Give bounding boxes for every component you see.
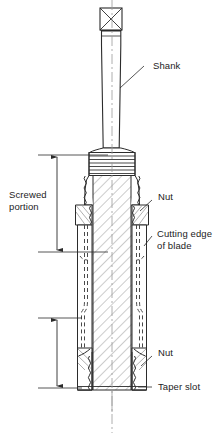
label-cutting-edge-of-blade: Cutting edge of blade [157,228,212,251]
square-head [100,8,122,31]
label-nut-upper: Nut [158,191,173,203]
label-screwed-portion: Screwed portion [9,189,47,212]
label-nut-lower: Nut [158,347,173,359]
tool-cross-section-drawing [0,0,224,433]
shank [102,31,121,148]
technical-diagram: Shank Screwed portion Nut Cutting edge o… [0,0,224,433]
label-shank: Shank [153,60,180,72]
lower-dimension [38,318,82,388]
leader-shank [120,66,144,88]
label-taper-slot: Taper slot [158,381,200,393]
